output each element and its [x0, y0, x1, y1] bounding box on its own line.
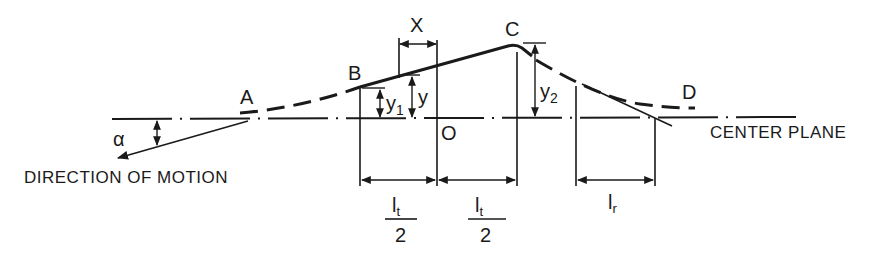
y-label: y [418, 86, 428, 108]
alpha-label: α [113, 128, 125, 150]
center-plane-line [112, 117, 800, 119]
tire-contact-diagram: α A B C D O X y1 y y2 [0, 0, 892, 259]
lt-half-label-2: lt 2 [468, 194, 506, 246]
point-d-label: D [682, 81, 696, 103]
point-a-label: A [240, 86, 254, 108]
curve-c-to-d [536, 60, 695, 108]
center-plane-caption: CENTER PLANE [710, 123, 846, 142]
point-c-label: C [505, 18, 519, 40]
y1-label: y1 [386, 92, 404, 118]
direction-of-motion-caption: DIRECTION OF MOTION [24, 168, 228, 187]
svg-text:lt: lt [392, 194, 400, 219]
extension-lines [360, 38, 655, 186]
y1-dimension [362, 88, 385, 117]
lr-label: lr [608, 191, 617, 216]
svg-text:lr: lr [608, 191, 617, 216]
lt-half-label-1: lt 2 [385, 194, 417, 246]
curve-a-to-b [240, 87, 360, 113]
y2-label: y2 [540, 80, 558, 106]
svg-text:lt: lt [475, 194, 483, 219]
tangent-line [582, 84, 672, 126]
direction-of-motion-arrow [118, 121, 248, 158]
svg-text:2: 2 [395, 224, 406, 246]
svg-text:2: 2 [480, 224, 491, 246]
point-b-label: B [348, 62, 361, 84]
point-o-label: O [441, 122, 457, 144]
line-b-to-c [360, 45, 532, 87]
x-dimension-label: X [410, 14, 423, 36]
